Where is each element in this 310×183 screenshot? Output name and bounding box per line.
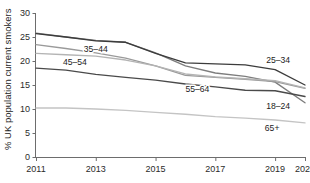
y-tick-label: 30	[20, 8, 30, 18]
y-tick-label: 0	[25, 152, 30, 162]
series-line-55-64	[36, 68, 305, 96]
series-label-65-: 65+	[265, 123, 280, 133]
series-label-55-64: 55–64	[185, 84, 209, 94]
series-label-45-54: 45–54	[63, 57, 87, 67]
x-tick-group: 201120132015201720192020	[26, 157, 310, 174]
series-line-65-	[36, 108, 305, 123]
chart-svg: 051015202530 201120132015201720192020 % …	[0, 0, 310, 183]
x-axis: 201120132015201720192020	[26, 157, 310, 174]
annotation-group: 35–4435–4445–5445–5455–6455–6425–3425–34…	[63, 44, 290, 133]
x-tick-label: 2011	[26, 164, 45, 174]
x-tick-label: 2015	[146, 164, 166, 174]
y-tick-group: 051015202530	[20, 8, 36, 162]
x-tick-label: 2017	[205, 164, 225, 174]
series-label-35-44: 35–44	[84, 44, 108, 54]
y-tick-label: 20	[20, 56, 30, 66]
series-label-25-34: 25–34	[266, 55, 290, 65]
x-tick-label: 2020	[295, 164, 310, 174]
y-tick-label: 10	[20, 104, 30, 114]
x-tick-label: 2013	[86, 164, 106, 174]
y-axis-title: % UK population current smokers	[2, 8, 13, 150]
line-chart: 051015202530 201120132015201720192020 % …	[0, 0, 310, 183]
y-axis: 051015202530	[20, 8, 36, 162]
y-tick-label: 25	[20, 32, 30, 42]
series-group	[36, 33, 305, 123]
x-tick-label: 2019	[265, 164, 285, 174]
y-tick-label: 15	[20, 80, 30, 90]
y-axis-title-text: % UK population current smokers	[2, 8, 13, 150]
y-tick-label: 5	[25, 128, 30, 138]
series-label-18-24: 18–24	[266, 101, 290, 111]
